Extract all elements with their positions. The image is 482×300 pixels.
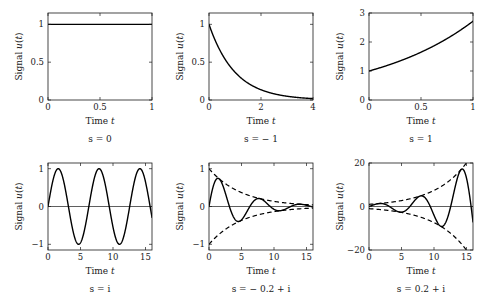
- y-tick-label: 20: [355, 158, 366, 168]
- panel-caption: s = − 1: [244, 134, 278, 144]
- y-tick-label: 0.5: [30, 57, 44, 67]
- y-tick-label: 0: [199, 95, 204, 105]
- panel-caption: s = 0.2 + i: [397, 284, 445, 294]
- envelope-curve: [209, 208, 313, 244]
- y-tick-label: 0: [39, 202, 44, 212]
- x-tick-label: 0: [206, 252, 211, 262]
- y-tick-label: 1: [199, 19, 204, 29]
- y-tick-label: 1: [199, 164, 204, 174]
- panel-s-1: 00.510123Time tSignal u(t)s = 1: [321, 0, 482, 150]
- x-axis-label: Time t: [246, 266, 276, 276]
- panel-caption: s = i: [90, 284, 111, 294]
- x-tick-label: 4: [310, 102, 315, 112]
- x-tick-label: 1: [471, 102, 476, 112]
- y-tick-label: 0: [360, 202, 365, 212]
- x-tick-label: 0: [367, 252, 372, 262]
- panel-s-neg1: 02400.51Time tSignal u(t)s = − 1: [161, 0, 322, 150]
- y-tick-label: 2: [360, 37, 365, 47]
- y-axis-label: Signal u(t): [14, 32, 24, 80]
- x-tick-label: 5: [238, 252, 243, 262]
- y-axis-label: Signal u(t): [175, 182, 185, 230]
- signal-curve: [209, 24, 313, 98]
- y-axis-label: Signal u(t): [14, 182, 24, 230]
- signal-curve: [209, 178, 313, 221]
- x-tick-label: 0: [45, 102, 50, 112]
- x-tick-label: 0: [367, 102, 372, 112]
- x-tick-label: 1: [149, 102, 154, 112]
- axes-frame: [209, 13, 313, 100]
- plot-area-3: 00.510123Time tSignal u(t)s = 1: [321, 0, 482, 150]
- x-tick-label: 10: [108, 252, 119, 262]
- panel-s-0: 00.5100.51Time tSignal u(t)s = 0: [0, 0, 161, 150]
- signal-curve: [369, 21, 473, 71]
- plot-area-2: 02400.51Time tSignal u(t)s = − 1: [161, 0, 322, 150]
- x-axis-label: Time t: [85, 116, 115, 126]
- panel-caption: s = − 0.2 + i: [231, 284, 290, 294]
- x-tick-label: 0.5: [415, 102, 429, 112]
- x-tick-label: 5: [399, 252, 404, 262]
- axes-frame: [369, 13, 473, 100]
- y-axis-label: Signal u(t): [335, 182, 345, 230]
- panel-s-pos02-i: 051015−20020Time tSignal u(t)s = 0.2 + i: [321, 150, 482, 300]
- y-tick-label: 0: [360, 95, 365, 105]
- x-axis-label: Time t: [85, 266, 115, 276]
- x-tick-label: 15: [140, 252, 151, 262]
- x-axis-label: Time t: [246, 116, 276, 126]
- x-axis-label: Time t: [407, 266, 437, 276]
- x-axis-label: Time t: [407, 116, 437, 126]
- x-tick-label: 2: [258, 102, 263, 112]
- panel-s-neg02-i: 051015−101Time tSignal u(t)s = − 0.2 + i: [161, 150, 322, 300]
- panel-caption: s = 1: [410, 134, 434, 144]
- y-tick-label: 1: [39, 164, 44, 174]
- x-tick-label: 10: [268, 252, 279, 262]
- x-tick-label: 0: [45, 252, 50, 262]
- axes-frame: [48, 13, 152, 100]
- y-tick-label: −20: [347, 245, 365, 255]
- y-tick-label: 0.5: [191, 57, 205, 67]
- x-tick-label: 15: [301, 252, 312, 262]
- y-tick-label: 0: [39, 95, 44, 105]
- y-tick-label: −1: [192, 239, 205, 249]
- x-tick-label: 10: [429, 252, 440, 262]
- plot-area-4: 051015−101Time tSignal u(t)s = i: [0, 150, 161, 300]
- y-tick-label: 3: [360, 8, 365, 18]
- figure-grid: 00.5100.51Time tSignal u(t)s = 0 02400.5…: [0, 0, 482, 300]
- x-tick-label: 0.5: [93, 102, 107, 112]
- envelope-curve: [369, 209, 473, 260]
- y-axis-label: Signal u(t): [175, 32, 185, 80]
- plot-area-1: 00.5100.51Time tSignal u(t)s = 0: [0, 0, 161, 150]
- x-tick-label: 15: [461, 252, 472, 262]
- panel-s-i: 051015−101Time tSignal u(t)s = i: [0, 150, 161, 300]
- plot-area-6: 051015−20020Time tSignal u(t)s = 0.2 + i: [321, 150, 482, 300]
- y-tick-label: 1: [360, 66, 365, 76]
- y-tick-label: −1: [31, 239, 44, 249]
- panel-caption: s = 0: [88, 134, 112, 144]
- y-tick-label: 0: [199, 202, 204, 212]
- plot-area-5: 051015−101Time tSignal u(t)s = − 0.2 + i: [161, 150, 322, 300]
- y-axis-label: Signal u(t): [335, 32, 345, 80]
- y-tick-label: 1: [39, 19, 44, 29]
- x-tick-label: 0: [206, 102, 211, 112]
- x-tick-label: 5: [78, 252, 83, 262]
